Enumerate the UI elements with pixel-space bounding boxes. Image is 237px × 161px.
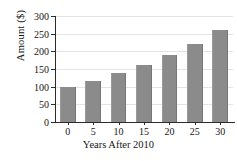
bar [85, 81, 101, 122]
x-tick-label: 30 [215, 126, 225, 137]
y-tick-label: 250 [34, 28, 49, 39]
y-tick-label: 100 [34, 81, 49, 92]
bar [60, 87, 76, 122]
y-tick-label: 200 [34, 46, 49, 57]
plot-area: 050100150200250300 051015202530 [55, 16, 233, 122]
x-tick-label: 15 [139, 126, 149, 137]
bar [187, 44, 203, 122]
y-tick-label: 50 [39, 99, 49, 110]
x-axis-line [55, 122, 235, 123]
gridline [55, 51, 233, 52]
y-axis-line [55, 16, 56, 122]
gridline [55, 34, 233, 35]
x-tick-label: 5 [91, 126, 96, 137]
bar-chart-figure: Amount ($) 050100150200250300 0510152025… [0, 0, 237, 161]
x-tick-label: 20 [164, 126, 174, 137]
y-tick-label: 150 [34, 64, 49, 75]
y-tick-label: 0 [44, 117, 49, 128]
bar [162, 55, 178, 122]
x-tick-label: 0 [65, 126, 70, 137]
x-tick-label: 10 [114, 126, 124, 137]
y-tick-label: 300 [34, 11, 49, 22]
gridline [55, 16, 233, 17]
bar [111, 73, 127, 122]
bar [212, 30, 228, 122]
x-axis-title: Years After 2010 [0, 139, 237, 150]
y-axis-title: Amount ($) [15, 0, 26, 86]
bar [136, 65, 152, 122]
x-tick-label: 25 [190, 126, 200, 137]
